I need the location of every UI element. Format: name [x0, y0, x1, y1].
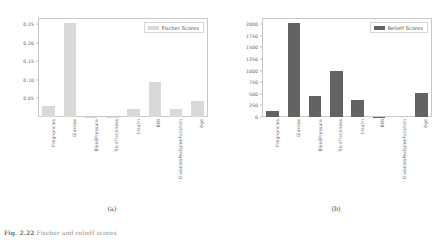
x-label-slot: Insulin: [123, 118, 144, 214]
bar-glucose: [64, 23, 76, 117]
y-tick-mark: [36, 42, 38, 43]
bar-slot: [347, 18, 368, 117]
x-axis-labels-a: PregnanciesGlucoseBloodPressureSkinThick…: [38, 118, 208, 214]
bar-diabetespedigreefunction: [170, 109, 182, 117]
legend-label-b: Relieff Scores: [388, 25, 423, 31]
x-tick-label: Glucose: [72, 119, 77, 137]
x-label-slot: BloodPressure: [81, 118, 102, 214]
bar-insulin: [351, 100, 363, 117]
x-label-slot: Glucose: [59, 118, 80, 214]
x-label-slot: Age: [187, 118, 208, 214]
x-tick-label: SkinThickness: [338, 119, 343, 151]
x-tick-label: BloodPressure: [93, 119, 98, 152]
bar-slot: [59, 18, 80, 117]
bar-glucose: [288, 23, 300, 117]
bar-bloodpressure: [309, 96, 321, 117]
x-axis-labels-b: PregnanciesGlucoseBloodPressureSkinThick…: [262, 118, 432, 214]
subplot-panel-a: Fischer Scores 0.050.100.150.200.25 Preg…: [0, 0, 224, 218]
x-label-slot: SkinThickness: [102, 118, 123, 214]
bar-slot: [283, 18, 304, 117]
figure-caption: Fig. 2.22 Fischer and relieff scores: [4, 229, 117, 236]
y-tick-mark: [36, 61, 38, 62]
bar-slot: [123, 18, 144, 117]
x-tick-label: BloodPressure: [317, 119, 322, 152]
x-label-slot: Pregnancies: [38, 118, 59, 214]
x-tick-label: BMI: [157, 119, 162, 127]
y-tick-mark: [260, 82, 262, 83]
figure-caption-label: Fig. 2.22: [4, 229, 34, 236]
y-tick-mark: [36, 24, 38, 25]
x-tick-label: DiabetesPedigreeFunction: [402, 119, 407, 179]
subplot-caption-a: (a): [0, 205, 224, 213]
plot-area-a: Fischer Scores 0.050.100.150.200.25: [38, 18, 208, 117]
bar-slot: [326, 18, 347, 117]
y-tick-mark: [260, 105, 262, 106]
x-tick-label: Pregnancies: [51, 119, 56, 147]
x-label-slot: Pregnancies: [262, 118, 283, 214]
y-tick-mark: [260, 35, 262, 36]
x-label-slot: BMI: [368, 118, 389, 214]
bar-age: [415, 93, 427, 117]
x-tick-label: Insulin: [360, 119, 365, 134]
bar-slot: [262, 18, 283, 117]
y-tick-mark: [36, 79, 38, 80]
x-label-slot: DiabetesPedigreeFunction: [166, 118, 187, 214]
figure-container: Fischer Scores 0.050.100.150.200.25 Preg…: [0, 0, 448, 240]
x-tick-label: Age: [199, 119, 204, 128]
bar-pregnancies: [42, 106, 54, 118]
bar-slot: [81, 18, 102, 117]
legend-label-a: Fischer Scores: [162, 25, 199, 31]
x-label-slot: SkinThickness: [326, 118, 347, 214]
x-tick-label: Insulin: [136, 119, 141, 134]
x-tick-label: DiabetesPedigreeFunction: [178, 119, 183, 179]
bar-insulin: [127, 109, 139, 117]
x-label-slot: Insulin: [347, 118, 368, 214]
legend-a: Fischer Scores: [144, 22, 204, 33]
x-label-slot: BMI: [144, 118, 165, 214]
legend-swatch-icon: [148, 26, 159, 30]
bar-slot: [102, 18, 123, 117]
y-tick-mark: [36, 98, 38, 99]
legend-b: Relieff Scores: [370, 22, 428, 33]
x-label-slot: BloodPressure: [305, 118, 326, 214]
y-tick-mark: [260, 58, 262, 59]
bar-pregnancies: [266, 111, 278, 117]
y-tick-mark: [260, 47, 262, 48]
bar-skinthickness: [330, 71, 342, 117]
y-tick-mark: [260, 70, 262, 71]
y-tick-mark: [260, 93, 262, 94]
x-label-slot: Glucose: [283, 118, 304, 214]
legend-swatch-icon: [374, 26, 385, 30]
x-tick-label: Age: [423, 119, 428, 128]
bar-slot: [305, 18, 326, 117]
x-tick-label: SkinThickness: [114, 119, 119, 151]
y-tick-mark: [260, 24, 262, 25]
bar-bmi: [149, 82, 161, 117]
subplot-caption-b: (b): [224, 205, 448, 213]
bar-slot: [38, 18, 59, 117]
subplot-panel-b: Relieff Scores 0250500750100012501500175…: [224, 0, 448, 218]
figure-caption-text: Fischer and relieff scores: [36, 229, 116, 236]
x-tick-label: BMI: [381, 119, 386, 127]
x-tick-label: Pregnancies: [275, 119, 280, 147]
x-tick-label: Glucose: [296, 119, 301, 137]
x-label-slot: Age: [411, 118, 432, 214]
plot-area-b: Relieff Scores 0250500750100012501500175…: [262, 18, 432, 117]
x-label-slot: DiabetesPedigreeFunction: [390, 118, 411, 214]
bar-age: [191, 101, 203, 117]
